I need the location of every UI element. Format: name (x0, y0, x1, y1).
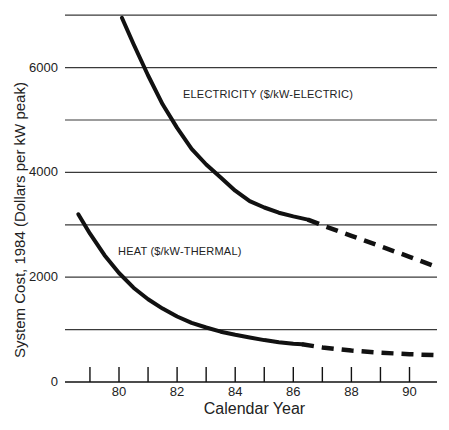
x-axis (65, 367, 437, 382)
electricity-curve-projected (308, 220, 439, 268)
x-tick-label: 86 (286, 384, 300, 399)
x-tick-label: 80 (112, 384, 126, 399)
cost-chart: System Cost, 1984 (Dollars per kW peak) … (0, 0, 449, 430)
y-tick-label: 0 (14, 374, 58, 389)
plot-area (0, 0, 449, 430)
series-lines (78, 18, 438, 356)
electricity-curve-solid (122, 18, 308, 220)
y-axis-label: System Cost, 1984 (Dollars per kW peak) (4, 60, 34, 380)
x-tick-label: 90 (402, 384, 416, 399)
electricity-series-label: ELECTRICITY ($/kW-ELECTRIC) (183, 88, 353, 100)
x-tick-label: 84 (228, 384, 242, 399)
y-tick-label: 6000 (14, 60, 58, 75)
y-tick-label: 4000 (14, 164, 58, 179)
x-tick-label: 82 (170, 384, 184, 399)
x-tick-label: 88 (344, 384, 358, 399)
gridlines (65, 15, 437, 329)
heat-curve-solid (78, 214, 302, 344)
heat-series-label: HEAT ($/kW-THERMAL) (118, 245, 242, 257)
heat-curve-projected (302, 344, 439, 355)
y-axis-title: System Cost, 1984 (Dollars per kW peak) (11, 82, 28, 358)
y-tick-label: 2000 (14, 269, 58, 284)
x-axis-title: Calendar Year (0, 400, 449, 418)
